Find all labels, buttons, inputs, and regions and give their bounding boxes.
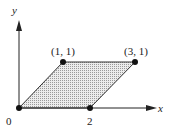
- y-axis-arrow-icon: [16, 20, 22, 31]
- label-3-1: (3, 1): [124, 45, 148, 58]
- x-axis-arrow-icon: [146, 105, 157, 111]
- vertex-3-1: [132, 59, 138, 65]
- origin-label: 0: [6, 115, 12, 127]
- vertex-1-1: [60, 59, 66, 65]
- y-axis-label: y: [11, 4, 17, 16]
- label-2-0: 2: [87, 115, 93, 127]
- vertex-origin: [16, 105, 22, 111]
- parallelogram-region: [19, 62, 135, 108]
- label-1-1: (1, 1): [51, 45, 75, 58]
- x-axis-label: x: [157, 102, 163, 114]
- vertex-2-0: [87, 105, 93, 111]
- parallelogram-diagram: y x 0 2 (3, 1) (1, 1): [0, 0, 169, 129]
